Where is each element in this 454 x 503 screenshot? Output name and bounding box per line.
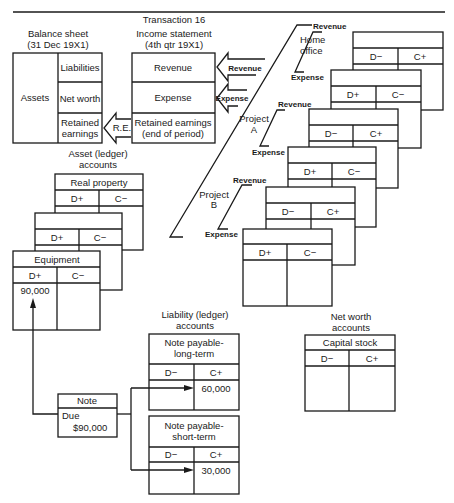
project-b-revenue: Revenue (233, 176, 267, 185)
expense-arrow: Expense (216, 84, 249, 112)
retained-earnings-end-label: Retained earnings (134, 117, 211, 128)
svg-text:D+: D+ (259, 247, 272, 258)
home-office-expense: Expense (291, 73, 324, 82)
svg-text:C+: C+ (327, 206, 340, 217)
asset-accounts-heading: Asset (ledger) (68, 148, 127, 159)
re-arrow: R.E. (104, 113, 131, 143)
project-a-expense: Expense (252, 148, 285, 157)
note-due-label: Due (62, 410, 79, 421)
revenue-label: Revenue (154, 62, 192, 73)
note-box: Note Due $90,000 (58, 394, 117, 437)
home-office-revenue: Revenue (313, 22, 347, 31)
diagram-title: Transaction 16 (143, 14, 206, 25)
svg-text:D−: D− (165, 367, 178, 378)
income-statement: Income statement (4th qtr 19X1) Revenue … (132, 28, 215, 143)
liability-accounts-heading: Liability (ledger) (161, 309, 228, 320)
svg-text:C−: C− (392, 89, 405, 100)
svg-text:(end of period): (end of period) (142, 128, 204, 139)
svg-text:R.E.: R.E. (113, 122, 131, 133)
svg-text:D+: D+ (29, 270, 42, 281)
svg-text:D+: D+ (347, 89, 360, 100)
svg-text:long-term: long-term (174, 348, 214, 359)
svg-text:Revenue: Revenue (228, 64, 262, 73)
svg-text:short-term: short-term (172, 431, 215, 442)
income-statement-period: (4th qtr 19X1) (145, 39, 203, 50)
note-payable-long-term-account: Note payable- long-term D− C+ 60,000 (149, 334, 239, 410)
note-title: Note (77, 395, 97, 406)
svg-text:D−: D− (370, 51, 383, 62)
assets-label: Assets (21, 92, 50, 103)
net-worth-label: Net worth (60, 93, 101, 104)
svg-text:C+: C+ (210, 367, 223, 378)
svg-text:C+: C+ (366, 353, 379, 364)
balance-sheet-heading: Balance sheet (28, 28, 89, 39)
svg-text:Note payable-: Note payable- (164, 337, 223, 348)
svg-text:A: A (251, 124, 258, 135)
note-amount: $90,000 (73, 422, 107, 433)
svg-text:C−: C− (115, 193, 128, 204)
svg-text:D−: D− (282, 206, 295, 217)
svg-text:Capital stock: Capital stock (323, 337, 378, 348)
balance-sheet-date: (31 Dec 19X1) (27, 39, 88, 50)
svg-text:Note payable-: Note payable- (164, 420, 223, 431)
expense-label: Expense (155, 92, 192, 103)
long-term-credit-value: 60,000 (201, 383, 230, 394)
equipment-debit-value: 90,000 (20, 285, 49, 296)
retained-earnings-label: Retained (61, 117, 99, 128)
revenue-arrow: Revenue (217, 53, 265, 81)
svg-text:D+: D+ (304, 166, 317, 177)
project-b-expense: Expense (205, 230, 238, 239)
svg-text:D−: D− (165, 449, 178, 460)
svg-text:accounts: accounts (332, 322, 370, 333)
note-payable-short-term-account: Note payable- short-term D− C+ 30,000 (149, 416, 239, 494)
svg-text:C+: C+ (210, 449, 223, 460)
liabilities-label: Liabilities (60, 62, 99, 73)
svg-text:accounts: accounts (176, 320, 214, 331)
svg-text:C+: C+ (414, 51, 427, 62)
equipment-account: Equipment D+ C− 90,000 (13, 251, 100, 330)
project-a-revenue: Revenue (278, 100, 312, 109)
net-worth-accounts: Net worth accounts Capital stock D− C+ (305, 311, 395, 411)
transaction-diagram: Transaction 16 Balance sheet (31 Dec 19X… (0, 0, 454, 503)
short-term-credit-value: 30,000 (201, 465, 230, 476)
svg-text:C−: C− (348, 166, 361, 177)
svg-text:D+: D+ (71, 193, 84, 204)
svg-text:Project: Project (239, 113, 269, 124)
svg-text:C−: C− (304, 247, 317, 258)
net-worth-accounts-heading: Net worth (331, 311, 372, 322)
liability-accounts: Liability (ledger) accounts Note payable… (149, 309, 239, 494)
svg-text:Expense: Expense (216, 94, 249, 103)
svg-text:C−: C− (94, 232, 107, 243)
svg-text:C−: C− (72, 270, 85, 281)
svg-text:Real property: Real property (70, 177, 127, 188)
svg-text:accounts: accounts (79, 159, 117, 170)
svg-text:earnings: earnings (62, 128, 99, 139)
svg-text:D−: D− (321, 353, 334, 364)
division-ledger-card: D+ C− (243, 229, 332, 306)
svg-text:C+: C+ (370, 128, 383, 139)
income-statement-heading: Income statement (136, 28, 212, 39)
balance-sheet: Balance sheet (31 Dec 19X1) Assets Liabi… (13, 28, 102, 143)
svg-text:D+: D+ (51, 232, 64, 243)
svg-text:Home: Home (300, 34, 325, 45)
svg-text:B: B (211, 199, 217, 210)
svg-text:D−: D− (325, 128, 338, 139)
svg-text:Equipment: Equipment (34, 254, 80, 265)
capital-stock-account: Capital stock D− C+ (305, 335, 395, 411)
